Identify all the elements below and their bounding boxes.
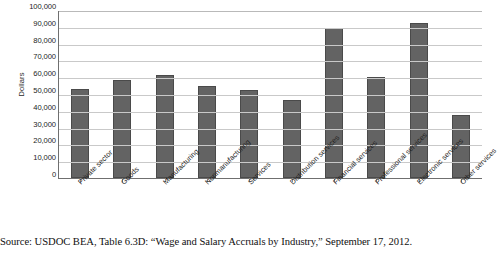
bar-chart-figure: Dollars 100,00090,00080,00070,00060,0005… [0, 0, 492, 228]
gridline [59, 162, 482, 163]
y-tick-label: 80,000 [8, 37, 56, 45]
plot-area [58, 11, 482, 179]
y-tick-label: 90,000 [8, 20, 56, 28]
bar[interactable] [325, 28, 343, 178]
y-tick-label: 0 [8, 171, 56, 179]
y-tick-label: 70,000 [8, 53, 56, 61]
y-tick-label: 10,000 [8, 154, 56, 162]
y-tick-label: 30,000 [8, 121, 56, 129]
y-tick-label: 40,000 [8, 104, 56, 112]
y-axis-tick-labels: 100,00090,00080,00070,00060,00050,00040,… [8, 7, 56, 183]
y-tick-label: 100,000 [8, 3, 56, 11]
bar[interactable] [71, 89, 89, 178]
y-tick-label: 50,000 [8, 87, 56, 95]
y-tick-label: 60,000 [8, 70, 56, 78]
gridline [59, 112, 482, 113]
x-axis-tick-labels: Private sectorGoodsManufacturingNonmanuf… [58, 180, 482, 228]
bar[interactable] [240, 90, 258, 178]
gridline [59, 11, 482, 12]
gridline [59, 28, 482, 29]
gridline [59, 95, 482, 96]
gridline [59, 78, 482, 79]
gridline [59, 129, 482, 130]
y-tick-label: 20,000 [8, 137, 56, 145]
figure-source-caption: Source: USDOC BEA, Table 6.3D: “Wage and… [0, 236, 492, 247]
gridline [59, 61, 482, 62]
gridline [59, 45, 482, 46]
bar[interactable] [198, 86, 216, 178]
bar[interactable] [410, 23, 428, 178]
